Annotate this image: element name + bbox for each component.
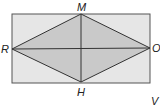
diagram-canvas: M H R O V [0,0,160,106]
label-m: M [77,1,87,13]
label-v: V [151,95,160,106]
label-h: H [77,86,85,98]
label-o: O [152,42,160,54]
label-r: R [1,43,9,55]
